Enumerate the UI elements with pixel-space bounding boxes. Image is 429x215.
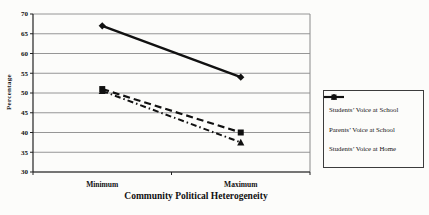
y-tick-label: 45 (21, 109, 29, 117)
legend-entry-1: Students’ Voice at School (329, 106, 421, 113)
legend-label: Students’ Voice at Home (329, 145, 396, 152)
y-tick-label: 35 (21, 149, 29, 157)
y-tick-label: 55 (21, 70, 29, 78)
y-axis-title: Percentage (5, 52, 13, 132)
diamond-marker (99, 22, 106, 29)
y-tick-label: 60 (21, 50, 29, 58)
y-tick-label: 40 (21, 129, 29, 137)
y-tick-label: 65 (21, 30, 29, 38)
x-axis-title: Community Political Heterogeneity (60, 191, 332, 201)
legend-box: Students’ Voice at SchoolParents’ Voice … (323, 90, 424, 168)
series-line-2 (102, 89, 241, 132)
triangle-marker (331, 94, 337, 100)
y-tick-label: 30 (21, 168, 29, 176)
legend-sample-triangle-icon (324, 91, 344, 103)
diamond-marker (237, 74, 244, 81)
x-category-label: Minimum (86, 180, 119, 189)
legend-label: Students’ Voice at School (329, 106, 398, 113)
y-tick-label: 70 (21, 10, 29, 18)
series-line-3 (102, 91, 241, 142)
square-marker (238, 130, 244, 136)
legend-entry-3: Students’ Voice at Home (329, 145, 421, 152)
figure: 303540455055606570MinimumMaximum Percent… (0, 0, 429, 215)
x-category-label: Maximum (224, 180, 258, 189)
legend-entry-2: Parents’ Voice at School (329, 126, 421, 133)
y-tick-label: 50 (21, 89, 29, 97)
legend-label: Parents’ Voice at School (329, 126, 395, 133)
